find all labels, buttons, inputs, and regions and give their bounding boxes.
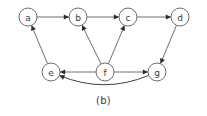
figure-container: abcdefg (b) [0, 0, 207, 116]
edge-a-to-b-arrowhead [64, 14, 69, 19]
node-f[interactable]: f [96, 63, 114, 81]
node-c[interactable]: c [119, 8, 137, 26]
edge-d-to-g [160, 25, 176, 63]
node-e-label: e [48, 68, 54, 78]
edge-b-to-c-arrowhead [114, 14, 119, 19]
node-d[interactable]: d [171, 8, 189, 26]
edge-f-to-b [82, 25, 101, 64]
node-e[interactable]: e [42, 63, 60, 81]
edge-f-to-e-arrowhead [60, 69, 65, 74]
edge-f-to-c [108, 25, 124, 63]
nodes-layer: abcdefg [19, 8, 189, 81]
node-g[interactable]: g [148, 63, 166, 81]
node-a[interactable]: a [19, 8, 37, 26]
node-a-label: a [25, 13, 31, 23]
node-d-label: d [177, 13, 183, 23]
node-g-label: g [154, 68, 160, 78]
edge-f-to-g-arrowhead [143, 69, 148, 74]
edge-c-to-d-arrowhead [166, 14, 171, 19]
edge-e-to-a [31, 25, 47, 63]
node-c-label: c [126, 13, 131, 23]
node-b[interactable]: b [69, 8, 87, 26]
figure-caption: (b) [0, 95, 207, 106]
node-b-label: b [75, 13, 81, 23]
